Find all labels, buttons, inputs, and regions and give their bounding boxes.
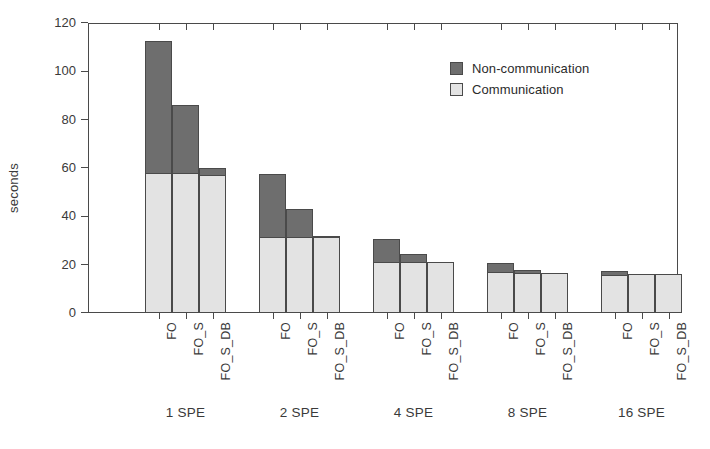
y-tick-label-20: 20 — [16, 257, 76, 272]
top-tick — [555, 23, 556, 30]
x-tick-label-FO_S_DB: FO_S_DB — [219, 322, 233, 412]
y-tick-label-120: 120 — [16, 15, 76, 30]
bar-segment-communication-1SPE-FO_S_DB — [199, 175, 226, 313]
top-tick — [159, 23, 160, 30]
bar-segment-communication-8SPE-FO_S — [514, 273, 541, 313]
y-axis-title: seconds — [6, 118, 21, 258]
x-tick — [213, 313, 214, 319]
y-tick-label-40: 40 — [16, 208, 76, 223]
stacked-bar-chart: seconds 020406080100120 FOFO_SFO_S_DBFOF… — [0, 0, 710, 449]
x-tick — [300, 313, 301, 319]
top-tick — [642, 23, 643, 30]
bar-segment-communication-2SPE-FO_S_DB — [313, 237, 340, 313]
top-tick — [414, 23, 415, 30]
x-tick — [528, 313, 529, 319]
x-tick — [441, 313, 442, 319]
x-tick-label-FO_S_DB: FO_S_DB — [561, 322, 575, 412]
legend-swatch-non-communication — [450, 62, 463, 75]
x-tick — [615, 313, 616, 319]
top-tick — [528, 23, 529, 30]
bar-segment-communication-1SPE-FO_S — [172, 173, 199, 313]
x-tick-label-FO_S_DB: FO_S_DB — [447, 322, 461, 412]
x-tick-label-FO: FO — [279, 322, 293, 412]
x-tick-label-FO_S: FO_S — [648, 322, 662, 412]
x-tick — [159, 313, 160, 319]
x-tick — [327, 313, 328, 319]
group-label-16-spe: 16 SPE — [582, 405, 702, 420]
x-tick-label-FO: FO — [165, 322, 179, 412]
y-tick-40 — [81, 216, 88, 217]
x-tick-label-FO_S: FO_S — [534, 322, 548, 412]
bar-segment-communication-2SPE-FO — [259, 237, 286, 313]
bar-segment-communication-16SPE-FO_S_DB — [655, 274, 682, 313]
top-tick — [387, 23, 388, 30]
x-tick — [273, 313, 274, 319]
bar-segment-non-communication-8SPE-FO — [487, 263, 514, 273]
legend-label-non-communication: Non-communication — [472, 61, 589, 76]
x-tick-label-FO_S_DB: FO_S_DB — [333, 322, 347, 412]
x-tick — [501, 313, 502, 319]
bar-segment-non-communication-2SPE-FO — [259, 174, 286, 238]
bar-segment-communication-4SPE-FO — [373, 262, 400, 313]
x-tick — [387, 313, 388, 319]
top-tick — [441, 23, 442, 30]
group-label-8-spe: 8 SPE — [468, 405, 588, 420]
y-tick-20 — [81, 264, 88, 265]
legend-swatch-communication — [450, 83, 463, 96]
bar-segment-non-communication-8SPE-FO_S — [514, 270, 541, 275]
y-tick-60 — [81, 167, 88, 168]
bar-segment-non-communication-1SPE-FO_S_DB — [199, 168, 226, 176]
x-tick — [555, 313, 556, 319]
bar-segment-non-communication-2SPE-FO_S — [286, 209, 313, 238]
top-tick — [615, 23, 616, 30]
legend-label-communication: Communication — [472, 82, 564, 97]
y-tick-120 — [81, 22, 88, 23]
group-label-1-spe: 1 SPE — [126, 405, 246, 420]
x-tick — [414, 313, 415, 319]
top-tick — [186, 23, 187, 30]
bar-segment-non-communication-1SPE-FO_S — [172, 105, 199, 174]
x-tick-label-FO_S: FO_S — [306, 322, 320, 412]
bar-segment-non-communication-4SPE-FO_S — [400, 254, 427, 264]
x-tick-label-FO_S: FO_S — [192, 322, 206, 412]
bar-segment-non-communication-4SPE-FO — [373, 239, 400, 263]
y-tick-0 — [81, 312, 88, 313]
bar-segment-communication-8SPE-FO — [487, 272, 514, 313]
x-tick-label-FO: FO — [621, 322, 635, 412]
top-tick — [300, 23, 301, 30]
bar-segment-communication-2SPE-FO_S — [286, 237, 313, 313]
y-tick-label-100: 100 — [16, 63, 76, 78]
x-tick-label-FO: FO — [393, 322, 407, 412]
top-tick — [213, 23, 214, 30]
group-label-2-spe: 2 SPE — [240, 405, 360, 420]
bar-segment-non-communication-16SPE-FO — [601, 271, 628, 276]
bar-segment-non-communication-2SPE-FO_S_DB — [313, 236, 340, 238]
y-tick-label-0: 0 — [16, 305, 76, 320]
bar-segment-communication-4SPE-FO_S — [400, 262, 427, 313]
top-tick — [501, 23, 502, 30]
x-tick — [669, 313, 670, 319]
x-tick-label-FO: FO — [507, 322, 521, 412]
y-tick-label-80: 80 — [16, 112, 76, 127]
bar-segment-communication-4SPE-FO_S_DB — [427, 262, 454, 313]
y-tick-80 — [81, 119, 88, 120]
y-tick-100 — [81, 71, 88, 72]
x-tick — [186, 313, 187, 319]
top-tick — [669, 23, 670, 30]
legend: Non-communication Communication — [450, 58, 589, 100]
top-tick — [273, 23, 274, 30]
bar-segment-communication-8SPE-FO_S_DB — [541, 273, 568, 313]
top-tick — [327, 23, 328, 30]
legend-item-communication: Communication — [450, 79, 589, 100]
y-tick-label-60: 60 — [16, 160, 76, 175]
group-label-4-spe: 4 SPE — [354, 405, 474, 420]
x-tick — [642, 313, 643, 319]
x-tick-label-FO_S_DB: FO_S_DB — [675, 322, 689, 412]
legend-item-non-communication: Non-communication — [450, 58, 589, 79]
bar-segment-non-communication-1SPE-FO — [145, 41, 172, 174]
bar-segment-communication-1SPE-FO — [145, 173, 172, 313]
x-tick-label-FO_S: FO_S — [420, 322, 434, 412]
bar-segment-communication-16SPE-FO_S — [628, 274, 655, 313]
bar-segment-communication-16SPE-FO — [601, 274, 628, 313]
